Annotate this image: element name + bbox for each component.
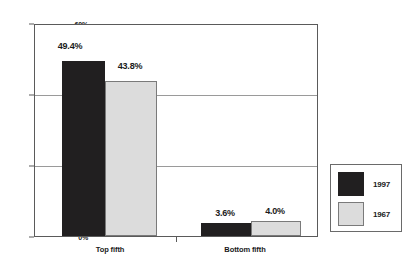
- chart-title-strip: [0, 0, 410, 7]
- data-label-top-fifth-1967: 43.8%: [104, 61, 156, 71]
- x-category-label-bottom-fifth: Bottom fifth: [185, 245, 305, 254]
- legend-entry-1967[interactable]: 1967: [338, 202, 390, 226]
- data-label-bottom-fifth-1967: 4.0%: [250, 206, 300, 216]
- bar-top-fifth-1967[interactable]: [105, 81, 157, 236]
- bar-bottom-fifth-1967[interactable]: [251, 221, 301, 236]
- legend-label-1967: 1967: [373, 210, 390, 219]
- bar-bottom-fifth-1997[interactable]: [201, 223, 251, 236]
- x-tick-mark-middle: [176, 237, 177, 242]
- legend-label-1997: 1997: [373, 180, 390, 189]
- data-label-bottom-fifth-1997: 3.6%: [200, 208, 250, 218]
- legend-swatch-1997: [338, 172, 364, 196]
- legend-entry-1997[interactable]: 1997: [338, 172, 390, 196]
- legend-swatch-1967: [338, 202, 364, 226]
- x-category-label-top-fifth: Top fifth: [50, 245, 170, 254]
- legend: 1997 1967: [330, 164, 402, 232]
- bar-top-fifth-1997[interactable]: [62, 61, 105, 236]
- data-label-top-fifth-1997: 49.4%: [48, 41, 92, 51]
